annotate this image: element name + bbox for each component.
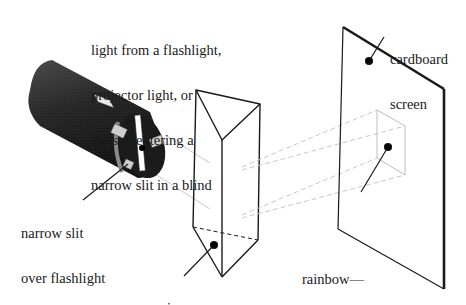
screen-line-1: cardboard bbox=[390, 52, 448, 67]
screen-pointer-dot bbox=[366, 58, 373, 65]
prism-pointer-dot bbox=[211, 242, 218, 249]
rainbow-pointer-dot bbox=[385, 144, 392, 151]
light-source-line-2: projector light, or bbox=[91, 88, 221, 103]
prism-pointer-line bbox=[184, 245, 214, 276]
light-source-label: light from a flashlight, projector light… bbox=[91, 13, 221, 208]
light-source-line-4: narrow slit in a blind bbox=[91, 178, 221, 193]
screen-pointer-line bbox=[369, 37, 384, 61]
light-source-line-3: the sun entering a bbox=[91, 133, 221, 148]
slit-label: narrow slit over flashlight bbox=[21, 196, 105, 301]
screen-label: cardboard screen bbox=[390, 22, 448, 127]
slit-line-2: over flashlight bbox=[21, 271, 105, 286]
outgoing-light-rays bbox=[242, 110, 405, 218]
screen-line-2: screen bbox=[390, 97, 448, 112]
prism-line-1: prism bbox=[155, 301, 188, 305]
light-source-line-1: light from a flashlight, bbox=[91, 43, 221, 58]
rainbow-line-1: rainbow— bbox=[302, 272, 365, 287]
slit-line-1: narrow slit bbox=[21, 226, 105, 241]
rainbow-label: rainbow— a spectrum of colors bbox=[302, 242, 365, 305]
prism-label: prism bbox=[155, 271, 188, 305]
rainbow-pointer-line bbox=[361, 147, 388, 192]
